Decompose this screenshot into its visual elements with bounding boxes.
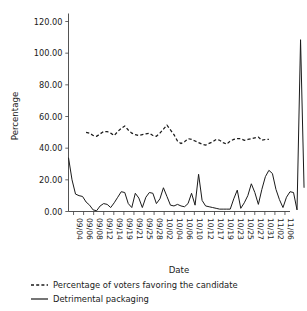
y-tick-label: 40.00	[39, 143, 62, 153]
x-tick-label: 10/02	[165, 218, 174, 240]
x-tick-label: 09/28	[155, 218, 164, 240]
y-tick-label: 100.00	[34, 48, 63, 58]
y-tick-label: 0.00	[44, 207, 62, 217]
y-axis: 0.0020.0040.0060.0080.00100.00120.00	[34, 14, 69, 217]
x-tick-label: 09/04	[75, 218, 84, 240]
axis-titles: DatePercentage	[10, 92, 189, 275]
series-line-voters	[86, 125, 269, 145]
x-tick-label: 10/25	[246, 218, 255, 240]
chart-legend: Percentage of voters favoring the candid…	[31, 280, 238, 304]
x-tick-label: 10/23	[236, 218, 245, 240]
y-tick-label: 80.00	[39, 80, 62, 90]
x-tick-label: 09/19	[125, 218, 134, 240]
x-tick-label: 10/17	[216, 218, 225, 240]
y-axis-title: Percentage	[10, 92, 20, 140]
legend-label: Percentage of voters favoring the candid…	[53, 280, 238, 290]
x-axis-title: Date	[169, 265, 190, 275]
y-tick-label: 20.00	[39, 175, 62, 185]
x-tick-label: 10/06	[185, 218, 194, 240]
legend-label: Detrimental packaging	[53, 294, 149, 304]
y-tick-label: 120.00	[34, 17, 63, 27]
x-tick-label: 09/12	[105, 218, 114, 240]
x-tick-label: 10/04	[175, 218, 184, 240]
x-tick-label: 10/12	[206, 218, 215, 240]
x-tick-label: 10/31	[266, 218, 275, 240]
chart-canvas: 0.0020.0040.0060.0080.00100.00120.00 09/…	[0, 0, 307, 311]
x-tick-label: 09/06	[85, 218, 94, 240]
y-tick-label: 60.00	[39, 112, 62, 122]
x-tick-label: 09/25	[145, 218, 154, 240]
x-tick-label: 11/06	[286, 218, 295, 240]
x-tick-label: 09/14	[115, 218, 124, 240]
series-line-packaging	[69, 40, 305, 211]
x-tick-label: 10/27	[256, 218, 265, 240]
x-tick-label: 11/02	[276, 218, 285, 240]
x-axis: 09/0409/0609/0809/1209/1409/1909/2109/25…	[69, 212, 296, 241]
x-tick-label: 10/19	[226, 218, 235, 240]
series-layer	[69, 40, 305, 211]
line-chart: 0.0020.0040.0060.0080.00100.00120.00 09/…	[0, 0, 307, 311]
x-tick-label: 09/08	[95, 218, 104, 240]
x-tick-label: 09/21	[135, 218, 144, 240]
x-tick-label: 10/10	[195, 218, 204, 240]
